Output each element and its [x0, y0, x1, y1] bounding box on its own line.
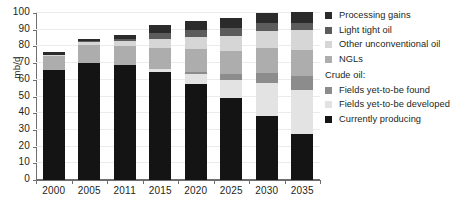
bar-segment — [220, 18, 242, 28]
bar-2030 — [256, 13, 278, 180]
x-tick-mark — [178, 180, 179, 184]
bar-segment — [220, 36, 242, 51]
legend-swatch-icon — [325, 101, 332, 108]
legend-label: Light tight oil — [339, 25, 392, 36]
bar-segment — [291, 76, 313, 89]
x-tick-label: 2000 — [36, 185, 72, 196]
x-tick-label: 2015 — [143, 185, 179, 196]
plot-area — [36, 13, 320, 180]
bar-segment — [256, 73, 278, 83]
bar-segment — [185, 21, 207, 30]
x-axis-labels: 20002005201120152020202520302035 — [36, 185, 320, 201]
bar-segment — [256, 13, 278, 23]
x-tick-label: 2035 — [285, 185, 321, 196]
bar-2005 — [78, 39, 100, 180]
y-tick-label: 10 — [18, 156, 30, 167]
legend-group-title: Crude oil: — [325, 70, 458, 81]
bar-segment — [185, 84, 207, 180]
legend-swatch-icon — [325, 116, 332, 123]
bar-2000 — [43, 52, 65, 180]
bar-segment — [185, 74, 207, 84]
x-tick-label: 2030 — [249, 185, 285, 196]
bar-segment — [185, 37, 207, 49]
bar-segment — [291, 134, 313, 180]
legend-item[interactable]: Light tight oil — [325, 25, 458, 36]
x-tick-label: 2005 — [72, 185, 108, 196]
bar-segment — [149, 48, 171, 69]
y-tick-label: 50 — [18, 90, 30, 101]
y-tick-label: 40 — [18, 106, 30, 117]
legend-item[interactable]: NGLs — [325, 54, 458, 65]
legend-item[interactable]: Currently producing — [325, 114, 458, 125]
chart-legend: Processing gainsLight tight oilOther unc… — [325, 10, 458, 129]
legend-label: Fields yet-to-be found — [339, 85, 430, 96]
bar-segment — [291, 50, 313, 76]
x-tick-mark — [72, 180, 73, 184]
legend-swatch-icon — [325, 27, 332, 34]
x-tick-mark — [285, 180, 286, 184]
y-tick-label: 60 — [18, 73, 30, 84]
legend-swatch-icon — [325, 41, 332, 48]
y-tick-label: 20 — [18, 140, 30, 151]
bar-segment — [220, 98, 242, 180]
bar-segment — [256, 48, 278, 73]
bar-2035 — [291, 12, 313, 180]
x-tick-label: 2011 — [107, 185, 143, 196]
legend-label: Fields yet-to-be developed — [339, 99, 450, 110]
y-tick-label: 90 — [18, 23, 30, 34]
bar-segment — [256, 23, 278, 31]
x-tick-mark — [107, 180, 108, 184]
bar-segment — [291, 30, 313, 50]
x-tick-label: 2025 — [214, 185, 250, 196]
bar-segment — [114, 65, 136, 180]
legend-swatch-icon — [325, 56, 332, 63]
bar-segment — [78, 63, 100, 180]
bar-segment — [78, 45, 100, 62]
bar-segment — [291, 12, 313, 22]
legend-item[interactable]: Fields yet-to-be found — [325, 85, 458, 96]
bar-segment — [149, 39, 171, 48]
x-tick-mark — [36, 180, 37, 184]
legend-label: Other unconventional oil — [339, 39, 440, 50]
legend-label: NGLs — [339, 54, 363, 65]
y-tick-label: 100 — [13, 6, 30, 17]
legend-item[interactable]: Other unconventional oil — [325, 39, 458, 50]
y-tick-label: 0 — [24, 173, 30, 184]
x-tick-label: 2020 — [178, 185, 214, 196]
legend-item[interactable]: Fields yet-to-be developed — [325, 99, 458, 110]
bar-segment — [220, 51, 242, 75]
legend-label: Currently producing — [339, 114, 421, 125]
y-tick-label: 80 — [18, 39, 30, 50]
bar-segment — [185, 49, 207, 71]
bar-segment — [149, 72, 171, 180]
bar-segment — [256, 83, 278, 116]
bar-segment — [291, 90, 313, 134]
stacked-bar-chart: mb/d 0102030405060708090100 200020052011… — [0, 0, 458, 204]
bar-group — [36, 13, 320, 180]
x-tick-mark — [320, 180, 321, 184]
bar-2011 — [114, 35, 136, 180]
x-tick-mark — [249, 180, 250, 184]
bar-segment — [256, 116, 278, 180]
y-tick-label: 30 — [18, 123, 30, 134]
bar-segment — [114, 46, 136, 65]
x-tick-mark — [143, 180, 144, 184]
bar-2020 — [185, 21, 207, 180]
legend-label: Processing gains — [339, 10, 411, 21]
y-tick-label: 70 — [18, 56, 30, 67]
bar-segment — [291, 23, 313, 30]
bar-segment — [256, 31, 278, 48]
bar-segment — [43, 70, 65, 180]
bar-segment — [220, 80, 242, 97]
x-tick-mark — [214, 180, 215, 184]
legend-swatch-icon — [325, 87, 332, 94]
y-axis-ticks: 0102030405060708090100 — [0, 13, 36, 180]
x-axis-ticks — [36, 180, 320, 184]
bar-segment — [149, 25, 171, 33]
bar-segment — [185, 30, 207, 37]
bar-2025 — [220, 18, 242, 180]
legend-swatch-icon — [325, 12, 332, 19]
bar-segment — [220, 28, 242, 36]
bar-segment — [43, 56, 65, 69]
legend-item[interactable]: Processing gains — [325, 10, 458, 21]
